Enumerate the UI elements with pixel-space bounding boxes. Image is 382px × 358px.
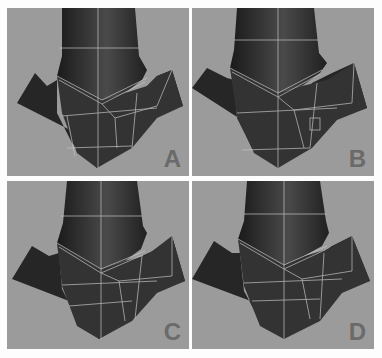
model-render-d	[192, 181, 374, 349]
panel-b: B	[192, 8, 374, 176]
panel-label-c: C	[164, 320, 181, 344]
panel-c: C	[7, 181, 189, 349]
panel-label-b: B	[349, 147, 366, 171]
model-render-c	[7, 181, 189, 349]
model-render-a	[7, 8, 189, 176]
panel-a: A	[7, 8, 189, 176]
figure-grid: A B	[7, 8, 375, 349]
model-render-b	[192, 8, 374, 176]
panel-label-d: D	[349, 320, 366, 344]
panel-d: D	[192, 181, 374, 349]
panel-label-a: A	[164, 147, 181, 171]
